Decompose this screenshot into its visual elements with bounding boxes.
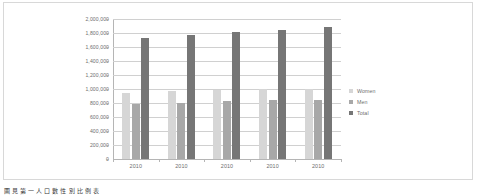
y-tick-mark <box>106 103 109 104</box>
bar-total[interactable] <box>278 30 286 159</box>
chart-figure: 2,000,0001,800,0001,600,0001,400,0001,20… <box>0 0 478 196</box>
x-tick-label: 2010 <box>221 163 233 169</box>
legend-swatch-men-icon <box>349 100 353 104</box>
x-tick-label: 2010 <box>266 163 278 169</box>
bar-women[interactable] <box>305 89 313 159</box>
bar-men[interactable] <box>314 100 322 159</box>
chart-card: 2,000,0001,800,0001,600,0001,400,0001,20… <box>3 2 473 180</box>
bar-group <box>250 19 296 159</box>
y-tick-mark <box>106 131 109 132</box>
bar-women[interactable] <box>259 89 267 159</box>
bar-men[interactable] <box>223 101 231 159</box>
x-tick-label: 2010 <box>130 163 142 169</box>
bar-men[interactable] <box>177 103 185 159</box>
bar-group <box>295 19 341 159</box>
x-tick-mark <box>204 159 205 162</box>
bar-group <box>204 19 250 159</box>
bar-total[interactable] <box>232 32 240 159</box>
bar-total[interactable] <box>187 35 195 159</box>
y-tick-mark <box>106 19 109 20</box>
y-axis-labels: 2,000,0001,800,0001,600,0001,400,0001,20… <box>38 19 109 159</box>
legend-label-men: Men <box>357 99 368 105</box>
legend-swatch-women-icon <box>349 89 353 93</box>
bar-group <box>159 19 205 159</box>
x-tick-label: 2010 <box>175 163 187 169</box>
y-tick-mark <box>106 47 109 48</box>
y-tick-mark <box>106 117 109 118</box>
x-tick-mark <box>295 159 296 162</box>
bar-women[interactable] <box>168 91 176 159</box>
bar-women[interactable] <box>213 90 221 159</box>
x-tick-mark <box>159 159 160 162</box>
y-tick-mark <box>106 61 109 62</box>
y-tick-mark <box>106 89 109 90</box>
x-tick-label: 2010 <box>312 163 324 169</box>
plot-area: 20102010201020102010 <box>113 19 341 159</box>
legend-swatch-total-icon <box>349 111 353 115</box>
y-tick-mark <box>106 159 109 160</box>
y-tick-mark <box>106 75 109 76</box>
bar-total[interactable] <box>141 38 149 159</box>
bar-men[interactable] <box>132 104 140 159</box>
chart-legend: Women Men Total <box>349 85 419 118</box>
bar-women[interactable] <box>122 93 130 160</box>
x-tick-mark <box>113 159 114 162</box>
y-tick-mark <box>106 145 109 146</box>
legend-label-total: Total <box>357 110 369 116</box>
legend-item-total[interactable]: Total <box>349 107 419 118</box>
gridline <box>113 159 341 160</box>
bar-group <box>113 19 159 159</box>
x-tick-mark <box>250 159 251 162</box>
bar-total[interactable] <box>324 27 332 159</box>
bar-men[interactable] <box>269 100 277 159</box>
y-tick-mark <box>106 33 109 34</box>
x-tick-mark <box>341 159 342 162</box>
legend-item-women[interactable]: Women <box>349 85 419 96</box>
legend-label-women: Women <box>357 88 376 94</box>
figure-caption: 圖 見 第 一 人 口 數 性 別 比 例 表 <box>4 186 99 195</box>
legend-item-men[interactable]: Men <box>349 96 419 107</box>
